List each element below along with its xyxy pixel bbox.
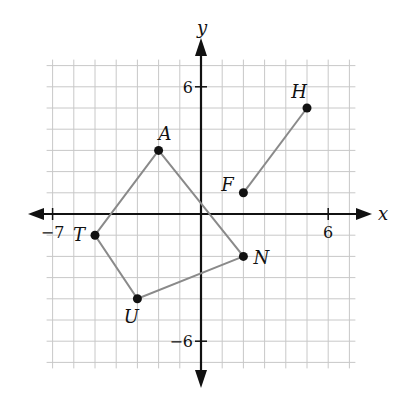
y-axis-down-arrow-icon [195, 370, 207, 388]
y-tick-label: 6 [183, 78, 193, 97]
point-u [133, 294, 142, 303]
point-label-u: U [124, 306, 140, 327]
point-h [303, 104, 312, 113]
point-n [239, 252, 248, 261]
x-axis-right-arrow-icon [356, 208, 372, 220]
coordinate-plane-diagram: xy−766−6ATUNFH [0, 0, 413, 404]
point-label-h: H [290, 81, 307, 102]
point-f [239, 188, 248, 197]
x-tick-label: 6 [323, 223, 333, 242]
point-a [154, 146, 163, 155]
x-tick-label: −7 [41, 223, 65, 242]
x-axis-left-arrow-icon [28, 208, 44, 220]
y-axis-up-arrow-icon [195, 38, 207, 56]
y-tick-label: −6 [169, 332, 193, 351]
y-axis-label: y [196, 17, 208, 38]
axes [28, 38, 372, 388]
labels: xy−766−6ATUNFH [41, 17, 388, 351]
point-label-f: F [220, 174, 235, 195]
point-label-n: N [252, 247, 270, 268]
x-axis-label: x [378, 203, 388, 224]
point-t [91, 231, 100, 240]
point-label-t: T [73, 224, 87, 245]
point-label-a: A [157, 123, 172, 144]
coordinate-plane-svg: xy−766−6ATUNFH [0, 0, 413, 404]
polygon-tanu [95, 150, 243, 298]
